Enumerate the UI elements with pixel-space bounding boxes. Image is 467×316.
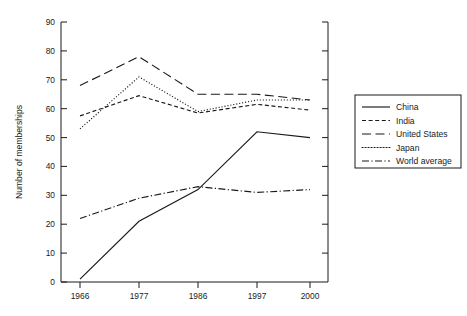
y-tick-label-40: 40 [46,161,56,171]
legend: China India United States Japan World av… [355,95,461,168]
y-tick-label-70: 70 [46,75,56,85]
x-axis-tick-labels: 1966 1977 1986 1997 2000 [71,291,320,301]
legend-item-china[interactable]: China [362,102,419,112]
y-tick-label-30: 30 [46,190,56,200]
legend-item-world-average[interactable]: World average [362,156,452,166]
legend-label-china: China [396,102,419,112]
y-axis-ticks-left [61,22,67,282]
x-tick-label-1986: 1986 [189,291,208,301]
legend-label-india: India [396,116,415,126]
x-tick-label-1977: 1977 [130,291,149,301]
x-axis-ticks [80,282,310,288]
y-tick-label-90: 90 [46,17,56,27]
legend-label-world-average: World average [396,156,452,166]
line-chart-figure: 90 80 70 60 50 40 30 20 10 0 1966 1977 1… [0,0,467,316]
y-tick-label-80: 80 [46,46,56,56]
series-line-united-states [80,57,310,100]
legend-item-united-states[interactable]: United States [362,129,448,139]
y-tick-label-60: 60 [46,104,56,114]
legend-label-united-states: United States [396,129,448,139]
legend-item-india[interactable]: India [362,116,415,126]
legend-item-japan[interactable]: Japan [362,143,420,153]
legend-label-japan: Japan [396,143,420,153]
y-axis-title: Number of memberships [14,105,24,199]
y-tick-label-50: 50 [46,133,56,143]
plot-frame [61,22,328,282]
y-tick-label-0: 0 [50,277,55,287]
x-tick-label-1997: 1997 [248,291,267,301]
y-tick-label-20: 20 [46,219,56,229]
y-axis-tick-labels: 90 80 70 60 50 40 30 20 10 0 [46,17,56,287]
y-tick-label-10: 10 [46,248,56,258]
series-group [80,57,310,279]
chart-canvas: 90 80 70 60 50 40 30 20 10 0 1966 1977 1… [0,0,467,316]
x-tick-label-2000: 2000 [301,291,320,301]
series-line-china [80,132,310,279]
y-axis-ticks-right [322,22,328,253]
series-line-japan [80,77,310,129]
x-tick-label-1966: 1966 [71,291,90,301]
